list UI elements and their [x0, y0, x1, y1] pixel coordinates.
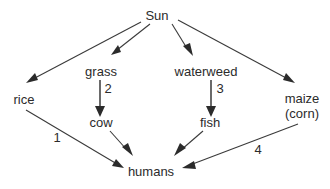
edge-rice-to-humans-arrowhead: [112, 159, 124, 168]
node-label-rice: rice: [14, 92, 35, 107]
edge-sun-to-rice: [26, 22, 141, 83]
edge-label-four: 4: [254, 142, 261, 157]
edge-maize-to-humans: [182, 124, 298, 169]
node-label-fish: fish: [200, 115, 220, 130]
food-web-diagram: Sun rice grass waterweed maize (corn) co…: [0, 0, 330, 189]
edge-cow-to-humans-arrowhead: [122, 143, 133, 156]
node-label-sun: Sun: [145, 8, 168, 23]
edge-sun-to-grass-arrowhead: [111, 45, 121, 55]
node-label-grass: grass: [85, 64, 117, 79]
node-label-maize-alt: (corn): [285, 106, 319, 121]
edge-sun-to-maize-arrowhead: [283, 73, 295, 83]
edge-maize-to-humans-arrowhead: [182, 161, 196, 169]
node-label-cow: cow: [89, 115, 113, 130]
food-web-canvas: Sun rice grass waterweed maize (corn) co…: [0, 0, 330, 189]
edge-sun-to-rice-arrowhead: [26, 73, 38, 83]
edge-cow-to-humans: [110, 131, 133, 156]
edge-sun-to-waterweed: [172, 24, 193, 56]
edge-label-two: 2: [104, 81, 111, 96]
edge-fish-to-humans: [174, 131, 203, 156]
edge-waterweed-to-fish: [206, 80, 216, 117]
edge-fish-to-humans-arrowhead: [174, 143, 186, 156]
edge-label-one: 1: [53, 130, 60, 145]
node-label-maize: maize: [285, 91, 320, 106]
node-label-humans: humans: [128, 164, 175, 179]
edge-label-three: 3: [216, 81, 223, 96]
edge-sun-to-grass-line: [117, 24, 150, 50]
edge-sun-to-grass: [111, 24, 150, 55]
node-label-waterweed: waterweed: [174, 64, 238, 79]
